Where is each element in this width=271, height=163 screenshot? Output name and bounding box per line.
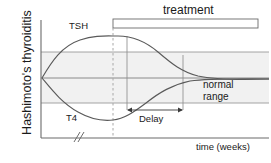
normal-range-label-line1: normal: [203, 79, 234, 91]
normal-range-band-lower: [41, 78, 269, 103]
treatment-bar: [113, 19, 258, 28]
axis-break-icon: [74, 132, 84, 142]
normal-range-label: normal range: [203, 79, 234, 102]
delay-label: Delay: [139, 114, 163, 124]
x-axis-label: time (weeks): [196, 142, 250, 152]
t4-series-label: T4: [66, 113, 77, 123]
y-axis-label: Hashimoto's thyroiditis: [21, 0, 34, 148]
tsh-series-label: TSH: [69, 21, 88, 31]
normal-range-band-upper: [41, 52, 269, 78]
treatment-label: treatment: [163, 4, 214, 17]
normal-range-label-line2: range: [203, 91, 234, 103]
thyroid-response-diagram: Hashimoto's thyroiditis treatment TSH T4…: [0, 0, 271, 163]
delay-arrow: [127, 108, 183, 113]
